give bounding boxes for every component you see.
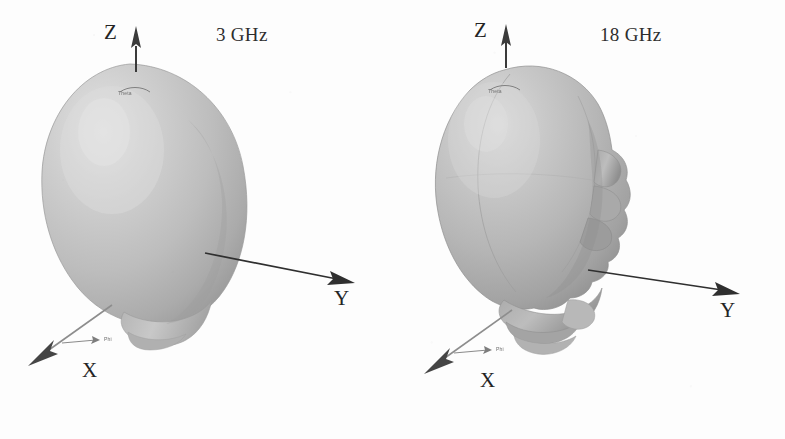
y-axis-18ghz	[588, 270, 740, 296]
panel-18ghz-graphics	[392, 0, 785, 439]
radiation-pattern-panel-3ghz: 3 GHz Z Y X Theta Phi	[0, 0, 392, 439]
lobe-surface-3ghz	[42, 64, 247, 350]
y-axis-label-3ghz: Y	[334, 286, 349, 311]
panel-3ghz-graphics	[0, 0, 392, 439]
figure-canvas: 3 GHz Z Y X Theta Phi	[0, 0, 785, 439]
x-axis-label-18ghz: X	[480, 368, 495, 393]
frequency-label-3ghz: 3 GHz	[216, 24, 268, 46]
z-axis-label-18ghz: Z	[474, 18, 487, 43]
theta-micro-label-3ghz: Theta	[118, 90, 132, 96]
z-axis-18ghz	[501, 24, 511, 68]
radiation-pattern-panel-18ghz: 18 GHz Z Y X Theta Phi	[392, 0, 784, 439]
theta-micro-label-18ghz: Theta	[488, 88, 502, 94]
phi-micro-label-18ghz: Phi	[496, 346, 504, 352]
x-axis-3ghz	[28, 305, 112, 366]
z-axis-label-3ghz: Z	[104, 20, 117, 45]
phi-micro-label-3ghz: Phi	[104, 336, 112, 342]
lobe-surface-18ghz	[435, 66, 630, 354]
x-axis-label-3ghz: X	[82, 358, 97, 383]
y-axis-label-18ghz: Y	[720, 298, 735, 323]
frequency-label-18ghz: 18 GHz	[600, 24, 661, 46]
x-axis-18ghz	[424, 310, 512, 374]
